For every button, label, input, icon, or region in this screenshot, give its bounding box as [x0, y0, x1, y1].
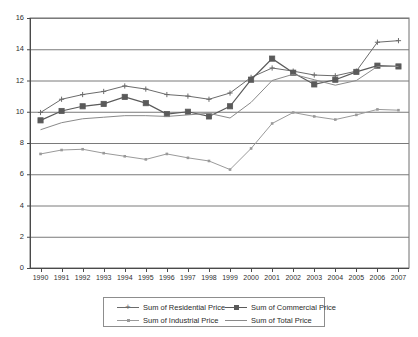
marker-2-2006 — [376, 108, 379, 111]
marker-1-1998 — [206, 114, 211, 119]
marker-1-1991 — [59, 108, 64, 113]
marker-2-1999 — [229, 168, 232, 171]
legend-square-marker-icon — [234, 305, 239, 310]
legend-dot-marker-icon — [127, 319, 130, 322]
marker-1-2004 — [333, 77, 338, 82]
marker-1-1999 — [227, 104, 232, 109]
legend-item-residential: + Sum of Residential Price — [116, 301, 225, 314]
marker-2-1992 — [81, 148, 84, 151]
marker-2-1996 — [166, 153, 169, 156]
legend-label-industrial: Sum of Industrial Price — [140, 316, 218, 325]
marker-2-1993 — [102, 152, 105, 155]
marker-1-1993 — [101, 101, 106, 106]
marker-1-1994 — [122, 94, 127, 99]
plot-area — [0, 0, 418, 337]
marker-1-2003 — [312, 82, 317, 87]
marker-2-2003 — [313, 115, 316, 118]
marker-1-2005 — [354, 69, 359, 74]
marker-2-2004 — [334, 118, 337, 121]
marker-2-2000 — [250, 147, 253, 150]
marker-1-1997 — [185, 109, 190, 114]
marker-2-2007 — [397, 109, 400, 112]
marker-1-1990 — [38, 118, 43, 123]
marker-2-2002 — [292, 111, 295, 114]
legend-label-residential: Sum of Residential Price — [140, 303, 225, 312]
marker-2-2005 — [355, 114, 358, 117]
marker-2-1995 — [145, 158, 148, 161]
legend-swatch-total — [224, 316, 248, 326]
marker-1-1992 — [80, 104, 85, 109]
legend-swatch-residential: + — [116, 303, 140, 313]
marker-2-1994 — [123, 155, 126, 158]
marker-2-1990 — [39, 153, 42, 156]
legend-item-industrial: Sum of Industrial Price — [116, 314, 218, 327]
marker-1-2000 — [248, 77, 253, 82]
legend-swatch-industrial — [116, 316, 140, 326]
legend-item-commercial: Sum of Commercial Price — [224, 301, 336, 314]
marker-2-1991 — [60, 149, 63, 152]
marker-2-2001 — [271, 122, 274, 125]
legend-label-total: Sum of Total Price — [248, 316, 312, 325]
x-tick-label-2007: 2007 — [385, 274, 411, 282]
marker-1-1995 — [143, 101, 148, 106]
legend-line — [225, 320, 247, 321]
legend-plus-marker-icon: + — [124, 303, 132, 312]
legend-item-total: Sum of Total Price — [224, 314, 312, 327]
marker-1-2001 — [270, 56, 275, 61]
marker-2-1997 — [187, 157, 190, 160]
legend-label-commercial: Sum of Commercial Price — [248, 303, 336, 312]
legend: + Sum of Residential Price Sum of Commer… — [103, 297, 325, 327]
marker-2-1998 — [208, 160, 211, 163]
legend-swatch-commercial — [224, 303, 248, 313]
line-chart: 0246810121416 19901991199219931994199519… — [0, 0, 418, 337]
